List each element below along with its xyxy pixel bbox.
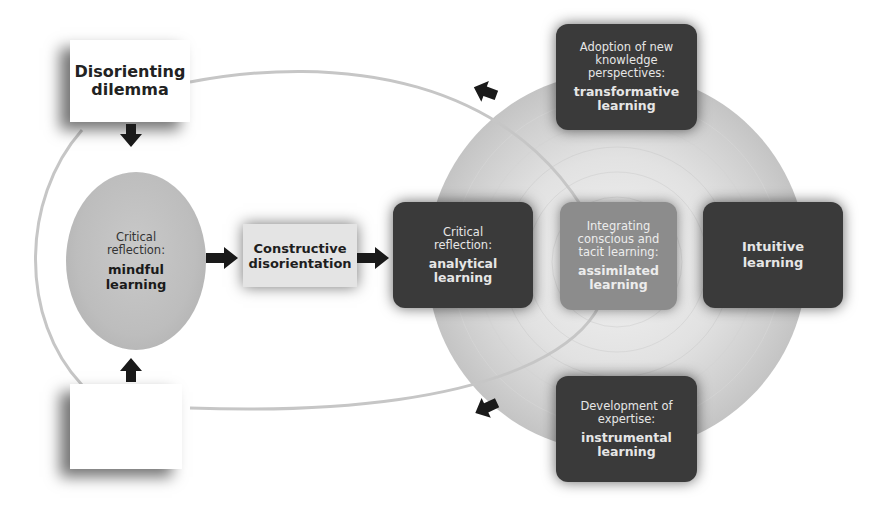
assimilated-main-line2: learning [589,278,647,292]
constructive-disorientation-box: Constructive disorientation [243,224,357,287]
mindful-learning-ellipse: Critical reflection: mindful learning [66,172,206,350]
analytical-sub-line1: Critical [443,226,483,239]
arrow-down-icon [119,124,143,148]
disorienting-dilemma-label-line1: Disorienting [75,63,186,81]
disorienting-dilemma-label-line2: dilemma [91,81,168,99]
arrow-up-icon [119,358,143,382]
analytical-main-line2: learning [434,271,492,285]
transformative-main-line2: learning [597,99,655,113]
mindful-sub-line1: Critical [116,231,156,244]
intuitive-main-line1: Intuitive [742,239,804,255]
intuitive-main-line2: learning [743,255,804,271]
instrumental-sub-line1: Development of [580,400,672,413]
blank-box [70,384,182,469]
analytical-main-line1: analytical [429,257,498,271]
assimilated-main-line1: assimilated [578,264,659,278]
assimilated-sub-line3: tacit learning: [578,246,658,259]
arrow-right-icon [357,247,389,269]
instrumental-main-line1: instrumental [581,431,672,445]
arrow-right-icon [206,247,238,269]
instrumental-main-line2: learning [597,445,655,459]
transformative-sub-line3: perspectives: [588,67,665,80]
constructive-label-line1: Constructive [253,241,346,256]
transformative-learning-box: Adoption of new knowledge perspectives: … [556,24,697,130]
analytical-learning-box: Critical reflection: analytical learning [393,202,533,308]
transformative-main-line1: transformative [574,85,679,99]
instrumental-learning-box: Development of expertise: instrumental l… [556,376,697,482]
constructive-label-line2: disorientation [248,256,351,271]
analytical-sub-line2: reflection: [434,239,492,252]
intuitive-learning-box: Intuitive learning [703,202,843,308]
mindful-main-line1: mindful [108,262,164,277]
disorienting-dilemma-box: Disorienting dilemma [70,40,190,122]
instrumental-sub-line2: expertise: [598,413,655,426]
mindful-sub-line2: reflection: [107,244,165,257]
mindful-main-line2: learning [106,277,167,292]
assimilated-learning-box: Integrating conscious and tacit learning… [560,202,677,310]
